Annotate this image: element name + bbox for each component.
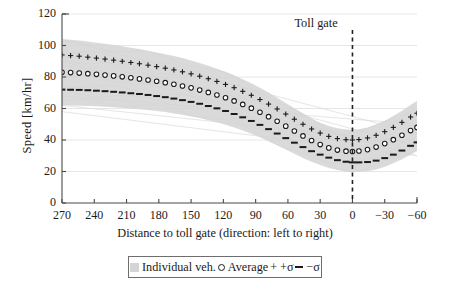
legend-entry-sigma-plus: + +σ	[270, 260, 293, 275]
figure-container: Speed [km/hr] Distance to toll gate (dir…	[0, 0, 450, 291]
y-tick-label: 100	[22, 38, 56, 53]
legend-label-individual: Individual veh.	[142, 260, 216, 275]
plus-marker-icon: +	[270, 261, 277, 273]
y-tick-label: 120	[22, 6, 56, 21]
legend-label-average: Average	[228, 260, 268, 275]
y-tick-label: 80	[22, 69, 56, 84]
dash-marker-icon	[295, 266, 303, 268]
y-tick-label: 20	[22, 164, 56, 179]
toll-gate-label: Toll gate	[294, 16, 337, 31]
y-tick-label: 40	[22, 132, 56, 147]
individual-vehicle-band	[62, 39, 417, 172]
legend-entry-sigma-minus: −σ	[295, 260, 319, 275]
chart-canvas	[0, 0, 450, 291]
open-circle-icon	[218, 264, 225, 271]
legend-entry-individual: Individual veh.	[130, 260, 216, 275]
x-axis-label: Distance to toll gate (direction: left t…	[0, 226, 450, 241]
band-swatch-icon	[130, 263, 139, 272]
legend-label-sigma-minus: −σ	[306, 260, 319, 275]
y-tick-label: 60	[22, 101, 56, 116]
legend-label-sigma-plus: +σ	[280, 260, 293, 275]
chart-legend: Individual veh. Average + +σ −σ	[128, 256, 322, 278]
x-tick-label: −60	[397, 208, 437, 223]
legend-entry-average: Average	[218, 260, 268, 275]
